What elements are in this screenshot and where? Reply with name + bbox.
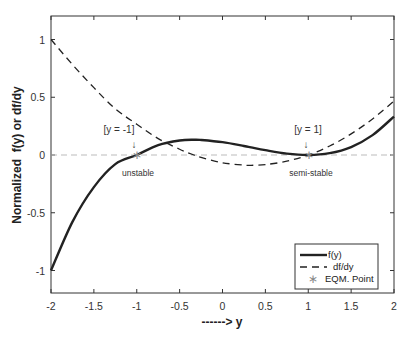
y-tick-label: 0 (39, 149, 45, 161)
x-tick-label: -0.5 (171, 300, 189, 312)
legend-item-df: df/dy (333, 261, 354, 272)
y-axis-label: Normalized f(y) or df/dy (10, 86, 24, 224)
annotation-right-state: semi-stable (289, 168, 333, 178)
eqm-marker-left: ∗ (132, 148, 142, 162)
y-tick-label: 0.5 (30, 91, 45, 103)
chart: -2-1.5-1-0.500.511.52 -1-0.500.51 ∗ ∗ [y… (0, 0, 409, 341)
x-tick-label: -1.5 (85, 300, 103, 312)
x-tick-labels: -2-1.5-1-0.500.511.52 (46, 300, 397, 312)
legend-item-eqm: EQM. Point (325, 273, 374, 284)
x-axis-label: ------> y (202, 315, 243, 329)
annotation-left-label: [y = -1] (104, 124, 135, 135)
annotation-left-state: unstable (122, 168, 154, 178)
legend-asterisk-icon: ∗ (308, 272, 318, 286)
x-tick-label: 0 (220, 300, 226, 312)
x-tick-label: 2 (391, 300, 397, 312)
y-tick-label: -0.5 (27, 207, 45, 219)
annotation-right-arrow: ↓ (304, 139, 309, 150)
x-tick-label: -1 (132, 300, 141, 312)
annotation-left-arrow: ↓ (132, 139, 137, 150)
y-tick-labels: -1-0.500.51 (27, 34, 45, 277)
eqm-marker-right: ∗ (304, 148, 314, 162)
x-tick-label: 1.5 (344, 300, 359, 312)
x-tick-label: -2 (46, 300, 55, 312)
x-tick-label: 1 (305, 300, 311, 312)
y-tick-label: 1 (39, 34, 45, 46)
legend: f(y) df/dy ∗ EQM. Point (295, 244, 378, 289)
y-tick-label: -1 (36, 265, 45, 277)
annotation-right-label: [y = 1] (294, 124, 322, 135)
legend-item-f: f(y) (328, 249, 342, 260)
x-tick-label: 0.5 (258, 300, 273, 312)
